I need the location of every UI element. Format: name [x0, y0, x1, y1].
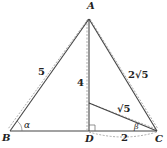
geometry-diagram: A B D C 5 4 2√5 √5 2 α β [0, 0, 167, 148]
angle-alpha-arc [17, 121, 22, 131]
label-length-AB: 5 [38, 66, 45, 77]
right-angle-marker [89, 125, 95, 131]
label-angle-beta: β [133, 122, 139, 131]
label-length-AC: 2√5 [128, 69, 149, 80]
label-length-DC: 2 [121, 132, 128, 143]
label-point-C: C [155, 133, 163, 144]
label-angle-alpha: α [24, 120, 30, 130]
label-point-D: D [84, 133, 94, 144]
label-length-EC: √5 [117, 103, 131, 114]
segment-AB [10, 19, 89, 131]
label-point-B: B [1, 132, 10, 143]
label-length-AD: 4 [77, 77, 84, 88]
label-point-A: A [86, 0, 95, 11]
